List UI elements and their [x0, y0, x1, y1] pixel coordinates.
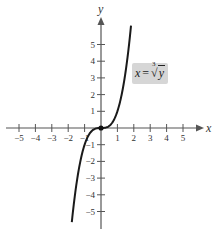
y-tick-label: −2 — [85, 156, 95, 166]
x-tick-label: −5 — [14, 133, 24, 143]
x-tick-label: −3 — [47, 133, 57, 143]
cube-root-expression: 3 √y — [151, 66, 165, 81]
equation-label: x = 3 √y — [132, 63, 168, 84]
x-tick-label: 5 — [181, 133, 186, 143]
x-tick-label: −2 — [63, 133, 73, 143]
x-tick-label: −4 — [31, 133, 41, 143]
equation-lhs: x — [135, 66, 140, 81]
y-tick-label: −4 — [85, 190, 95, 200]
y-tick-label: 5 — [91, 40, 96, 50]
x-tick-label: 2 — [132, 133, 137, 143]
axes — [6, 17, 204, 229]
root-index: 3 — [152, 60, 156, 68]
y-tick-label: −3 — [85, 173, 95, 183]
y-tick-label: 2 — [91, 90, 96, 100]
x-axis-label: x — [205, 121, 212, 135]
y-tick-label: 4 — [91, 56, 96, 66]
cube-root-graph: −5−4−3−2−112345−5−4−3−2−112345 x y — [0, 0, 217, 233]
y-axis-arrow-icon — [98, 17, 105, 25]
radicand: y — [158, 65, 165, 80]
x-tick-label: 3 — [148, 133, 153, 143]
y-tick-label: 1 — [91, 106, 96, 116]
x-tick-label: 1 — [115, 133, 120, 143]
y-tick-label: −5 — [85, 207, 95, 217]
origin-point — [98, 125, 103, 130]
x-tick-label: 4 — [164, 133, 169, 143]
y-axis-label: y — [97, 2, 104, 16]
radical-icon: √ — [151, 66, 158, 80]
equation-equals: = — [142, 66, 149, 81]
x-axis-arrow-icon — [196, 125, 204, 132]
y-tick-label: 3 — [91, 73, 96, 83]
